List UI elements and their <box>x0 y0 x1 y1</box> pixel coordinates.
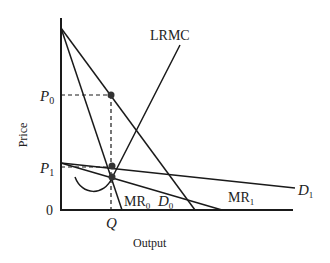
mr0-line <box>61 28 122 210</box>
monopolistic-competition-chart: LRMC P0 P1 0 Q MR0 D0 MR1 D1 Output Pric… <box>0 0 330 263</box>
point-p1 <box>109 163 116 170</box>
lrmc-label: LRMC <box>150 28 190 43</box>
y-axis-title: Price <box>16 123 30 148</box>
point-mr-lrmc <box>109 174 116 181</box>
d1-line <box>61 163 295 188</box>
p1-label: P1 <box>39 160 54 178</box>
mr0-label: MR0 <box>124 194 151 211</box>
p0-label: P0 <box>39 88 54 106</box>
d1-label: D1 <box>297 182 313 200</box>
x-axis-title: Output <box>133 236 167 250</box>
point-p0 <box>108 92 115 99</box>
q-label: Q <box>106 215 117 231</box>
mr1-label: MR1 <box>228 190 254 207</box>
zero-label: 0 <box>46 203 53 218</box>
